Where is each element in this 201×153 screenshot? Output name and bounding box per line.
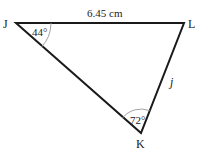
triangle-jkl [16,23,184,133]
side-label-jl: 6.45 cm [87,7,123,19]
vertex-label-j: J [3,17,8,31]
vertex-label-l: L [188,17,195,31]
triangle-diagram: J L K 44° 72° 6.45 cm j [0,0,201,153]
angle-label-k: 72° [130,114,145,126]
angle-label-j: 44° [32,26,47,38]
side-label-lk: j [168,75,174,89]
vertex-label-k: K [136,137,145,151]
